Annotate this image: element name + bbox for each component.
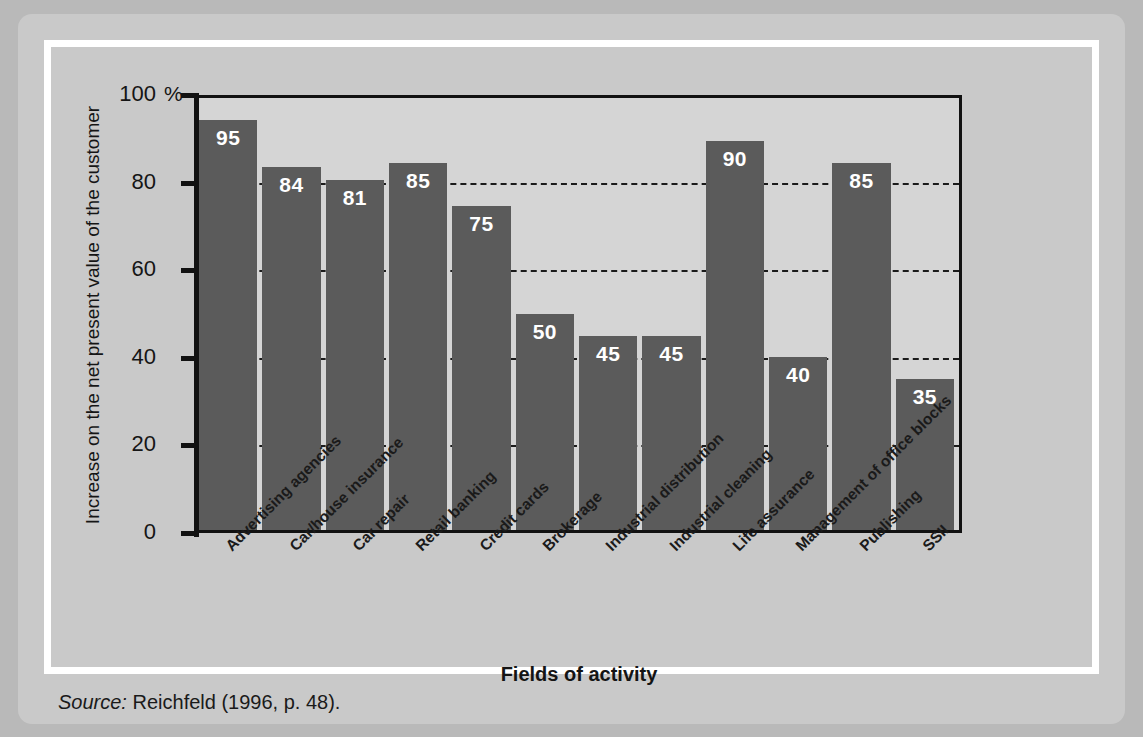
y-tick-20 xyxy=(181,443,195,448)
bar-value-label: 40 xyxy=(769,363,827,387)
y-axis-unit-symbol: % xyxy=(164,82,183,106)
source-text: Reichfeld (1996, p. 48). xyxy=(133,691,341,713)
y-tick-60 xyxy=(181,268,195,273)
bar-value-label: 95 xyxy=(199,126,257,150)
x-axis-title: Fields of activity xyxy=(196,663,962,686)
y-axis-title: Increase on the net present value of the… xyxy=(82,100,104,530)
bar-chart: Increase on the net present value of the… xyxy=(18,14,1125,724)
y-tick-label-wrap-0: 0 xyxy=(96,519,156,543)
source-label: Source: xyxy=(58,691,127,713)
bar-value-label: 85 xyxy=(389,169,447,193)
y-tick-label-wrap-100: 100 xyxy=(96,81,156,105)
y-tick-40 xyxy=(181,356,195,361)
bar-value-label: 45 xyxy=(579,342,637,366)
y-tick-0 xyxy=(181,531,195,536)
bar[interactable]: 85 xyxy=(389,163,447,530)
bar-value-label: 50 xyxy=(516,320,574,344)
y-tick-label-wrap-80: 80 xyxy=(96,169,156,193)
y-tick-label-wrap-20: 20 xyxy=(96,431,156,455)
bar-value-label: 85 xyxy=(832,169,890,193)
y-tick-label-20: 20 xyxy=(96,431,156,457)
y-tick-label-wrap-60: 60 xyxy=(96,256,156,280)
figure-panel: Increase on the net present value of the… xyxy=(18,14,1125,724)
y-tick-label-100: 100 xyxy=(96,81,156,107)
y-tick-label-60: 60 xyxy=(96,256,156,282)
y-tick-label-0: 0 xyxy=(96,519,156,545)
bar-value-label: 90 xyxy=(706,147,764,171)
y-tick-80 xyxy=(181,181,195,186)
bar-value-label: 81 xyxy=(326,186,384,210)
bar-value-label: 45 xyxy=(642,342,700,366)
bar-value-label: 84 xyxy=(262,173,320,197)
y-tick-label-40: 40 xyxy=(96,344,156,370)
y-tick-label-80: 80 xyxy=(96,169,156,195)
source-line: Source: Reichfeld (1996, p. 48). xyxy=(58,691,340,714)
bar-value-label: 75 xyxy=(452,212,510,236)
bar[interactable]: 95 xyxy=(199,120,257,530)
y-tick-label-wrap-40: 40 xyxy=(96,344,156,368)
y-tick-100 xyxy=(181,93,195,98)
